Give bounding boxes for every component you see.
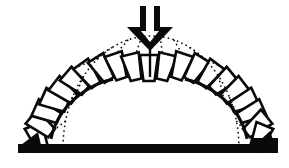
ground-bar-rect: [18, 144, 278, 153]
arch-diagram-figure: [0, 0, 289, 168]
arch-diagram-svg: [0, 0, 289, 168]
down-arrow-icon: [127, 6, 173, 51]
load-arrow-icon: [127, 6, 173, 51]
